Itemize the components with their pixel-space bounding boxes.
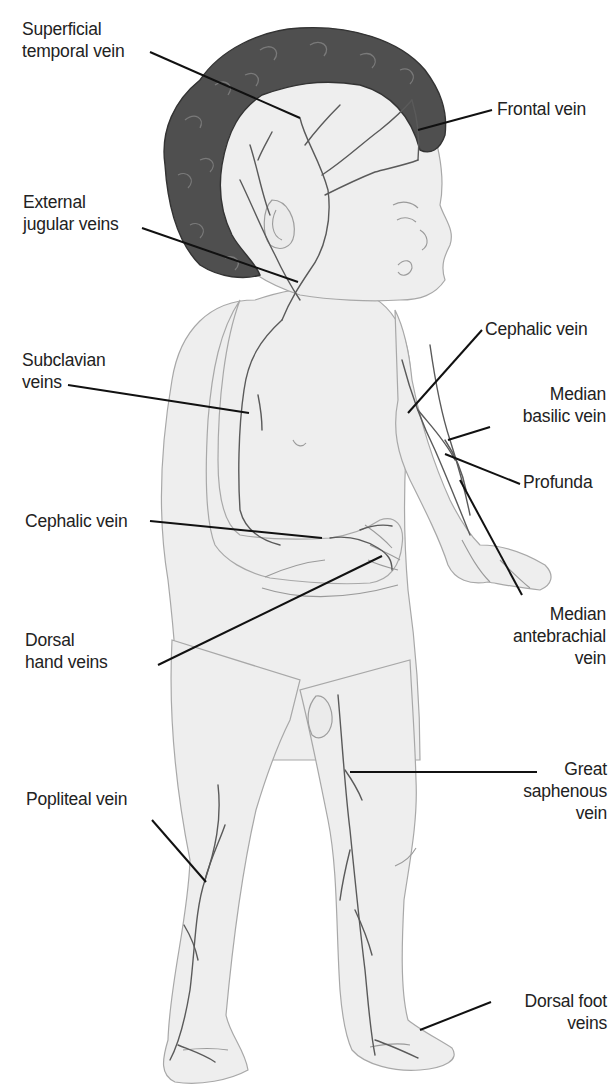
label-median-antebrachial-vein: Median antebrachial vein <box>513 603 606 669</box>
label-dorsal-hand-veins: Dorsal hand veins <box>25 629 108 673</box>
label-median-basilic-vein: Median basilic vein <box>523 383 606 427</box>
label-dorsal-foot-veins: Dorsal foot veins <box>525 990 607 1034</box>
label-superficial-temporal-vein: Superficial temporal vein <box>22 18 124 62</box>
right-leg <box>300 660 454 1070</box>
right-arm <box>395 310 551 590</box>
leader-dorsal-foot <box>420 1002 491 1030</box>
infant-illustration <box>0 0 615 1087</box>
label-popliteal-vein: Popliteal vein <box>26 788 127 810</box>
vein-diagram: Superficial temporal vein External jugul… <box>0 0 615 1087</box>
left-leg <box>164 640 300 1083</box>
label-cephalic-vein-right: Cephalic vein <box>485 318 587 340</box>
label-great-saphenous-vein: Great saphenous vein <box>523 758 607 824</box>
label-subclavian-veins: Subclavian veins <box>22 349 106 393</box>
leader-profunda <box>445 454 520 484</box>
leader-median-basilic <box>448 427 490 440</box>
label-external-jugular-veins: External jugular veins <box>23 191 119 235</box>
label-cephalic-vein-left: Cephalic vein <box>25 510 127 532</box>
label-frontal-vein: Frontal vein <box>497 98 586 120</box>
label-profunda: Profunda <box>523 471 592 493</box>
leader-cephalic-right <box>408 330 482 413</box>
